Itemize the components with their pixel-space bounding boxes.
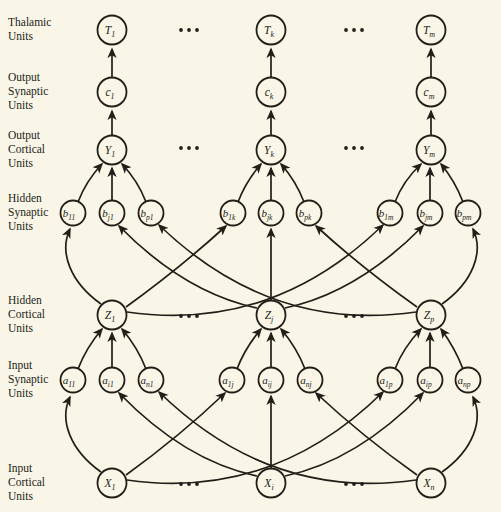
dot bbox=[179, 482, 183, 486]
dot bbox=[360, 314, 364, 318]
ellipsis-dots-3 bbox=[344, 146, 364, 150]
node-Z1: Z1 bbox=[98, 301, 127, 330]
ellipsis-dots-5 bbox=[344, 314, 364, 318]
dot bbox=[360, 146, 364, 150]
dot bbox=[195, 146, 199, 150]
node-aip: aip bbox=[418, 368, 443, 393]
node-Xi: Xi bbox=[257, 469, 286, 498]
dot bbox=[195, 28, 199, 32]
node-bpk: bpk bbox=[297, 201, 322, 226]
dot bbox=[187, 482, 191, 486]
node-bj1: bj1 bbox=[100, 201, 125, 226]
node-Zj: Zj bbox=[257, 301, 286, 330]
dot bbox=[352, 314, 356, 318]
node-Tm: Tm bbox=[417, 16, 446, 45]
node-bjk: bjk bbox=[259, 201, 284, 226]
dot bbox=[179, 314, 183, 318]
node-Y1: Y1 bbox=[98, 136, 127, 165]
node-a1p: a1p bbox=[378, 368, 403, 393]
node-Yk: Yk bbox=[257, 136, 286, 165]
node-bp1: bp1 bbox=[139, 201, 164, 226]
node-a11: a11 bbox=[61, 368, 86, 393]
dot bbox=[352, 146, 356, 150]
dot bbox=[344, 28, 348, 32]
dot bbox=[179, 28, 183, 32]
node-Zp: Zp bbox=[417, 301, 446, 330]
node-anp: anp bbox=[456, 368, 481, 393]
diagram-page: T1TkTmc1ckcmY1YkYmb11bj1bp1b1kbjkbpkb1mb… bbox=[0, 0, 501, 512]
dot bbox=[360, 28, 364, 32]
dot bbox=[187, 146, 191, 150]
ellipsis-dots-7 bbox=[344, 482, 364, 486]
node-b1m: b1m bbox=[378, 201, 403, 226]
ellipsis-dots-4 bbox=[179, 314, 199, 318]
node-b11: b11 bbox=[61, 201, 86, 226]
node-bjm: bjm bbox=[418, 201, 443, 226]
dot bbox=[187, 314, 191, 318]
node-ck: ck bbox=[257, 78, 286, 107]
node-T1: T1 bbox=[98, 16, 127, 45]
dot bbox=[352, 28, 356, 32]
node-aij: aij bbox=[259, 368, 284, 393]
node-Tk: Tk bbox=[257, 16, 286, 45]
ellipsis-dots-1 bbox=[344, 28, 364, 32]
ellipsis-dots-6 bbox=[179, 482, 199, 486]
node-anj: anj bbox=[298, 368, 323, 393]
dot bbox=[195, 482, 199, 486]
node-Xn: Xn bbox=[417, 469, 446, 498]
dot bbox=[179, 146, 183, 150]
dot bbox=[344, 146, 348, 150]
page-background bbox=[0, 0, 501, 512]
node-X1: X1 bbox=[98, 469, 127, 498]
node-Ym: Ym bbox=[417, 136, 446, 165]
node-ai1: ai1 bbox=[100, 368, 125, 393]
node-cm: cm bbox=[417, 78, 446, 107]
dot bbox=[344, 482, 348, 486]
dot bbox=[195, 314, 199, 318]
dot bbox=[360, 482, 364, 486]
node-b1k: b1k bbox=[221, 201, 246, 226]
node-c1: c1 bbox=[98, 78, 127, 107]
dot bbox=[352, 482, 356, 486]
node-a1j: a1j bbox=[220, 368, 245, 393]
dot bbox=[344, 314, 348, 318]
node-an1: an1 bbox=[139, 368, 164, 393]
ellipsis-dots-0 bbox=[179, 28, 199, 32]
ellipsis-dots-2 bbox=[179, 146, 199, 150]
node-bpm: bpm bbox=[456, 201, 481, 226]
dot bbox=[187, 28, 191, 32]
neural-network-diagram: T1TkTmc1ckcmY1YkYmb11bj1bp1b1kbjkbpkb1mb… bbox=[0, 0, 501, 512]
